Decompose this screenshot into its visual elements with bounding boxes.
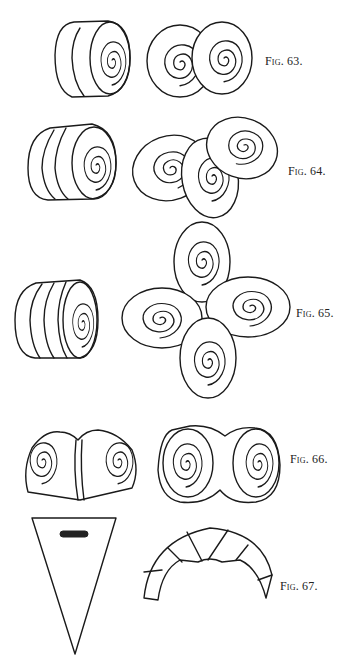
fig-63-label: Fig. 63.	[265, 54, 303, 69]
illustration-plate	[0, 0, 348, 660]
fig-67-crescent	[144, 528, 272, 600]
fig-63-slices	[147, 22, 252, 97]
fig-65-cross	[122, 222, 290, 398]
fig-64-roll	[28, 124, 116, 200]
fig-64-label: Fig. 64.	[288, 164, 326, 179]
fig-66-double-scroll	[158, 426, 280, 503]
fig-66-folded	[26, 430, 136, 500]
fig-64-slices	[123, 107, 286, 222]
fig-67-triangle	[32, 518, 116, 654]
fig-65-label: Fig. 65.	[296, 306, 334, 321]
fig-67-label: Fig. 67.	[280, 579, 318, 594]
fig-63-roll	[55, 21, 130, 97]
fig-65-roll	[15, 280, 98, 358]
fig-66-label: Fig. 66.	[290, 452, 328, 467]
